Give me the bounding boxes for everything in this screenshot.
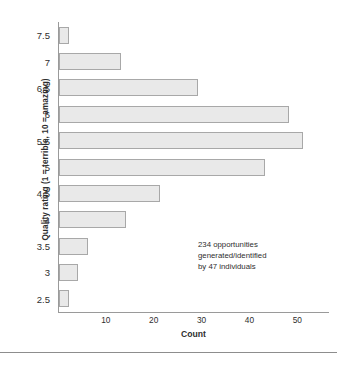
bar-row: 6.5 <box>59 79 198 96</box>
bar-row: 7 <box>59 53 121 70</box>
x-axis-line <box>58 312 329 313</box>
bar <box>59 290 69 307</box>
y-tick-label: 3.5 <box>37 241 50 252</box>
bar-row: 2.5 <box>59 290 69 307</box>
y-tick-label: 4 <box>45 214 50 225</box>
bar <box>59 106 289 123</box>
y-tick-label: 5.5 <box>37 135 50 146</box>
chart-annotation: 234 opportunities generated/identified b… <box>198 239 267 273</box>
bar <box>59 79 198 96</box>
x-tick-label: 10 <box>101 315 110 325</box>
bar <box>59 53 121 70</box>
y-tick-label: 4.5 <box>37 188 50 199</box>
bar <box>59 264 78 281</box>
y-tick-label: 3 <box>45 267 50 278</box>
annotation-line-3: by 47 individuals <box>198 261 267 272</box>
y-tick-label: 6 <box>45 109 50 120</box>
bar-row: 6 <box>59 106 289 123</box>
plot-area: 7.576.565.554.543.532.5 1020304050 Count <box>58 22 326 312</box>
bar <box>59 238 88 255</box>
x-tick-label: 30 <box>197 315 206 325</box>
x-tick-label: 50 <box>293 315 302 325</box>
bar <box>59 132 303 149</box>
bar <box>59 185 160 202</box>
bar-row: 5 <box>59 159 265 176</box>
annotation-line-1: 234 opportunities <box>198 239 267 250</box>
bar-row: 7.5 <box>59 27 69 44</box>
y-tick-label: 7 <box>45 56 50 67</box>
y-tick-label: 2.5 <box>37 293 50 304</box>
x-tick-label: 40 <box>245 315 254 325</box>
bar <box>59 211 126 228</box>
x-tick-label: 20 <box>149 315 158 325</box>
y-tick-label: 5 <box>45 162 50 173</box>
annotation-line-2: generated/identified <box>198 250 267 261</box>
bar-row: 5.5 <box>59 132 303 149</box>
page-divider <box>0 352 337 353</box>
bar-row: 3.5 <box>59 238 88 255</box>
y-tick-label: 7.5 <box>37 30 50 41</box>
bar-row: 3 <box>59 264 78 281</box>
bar-row: 4.5 <box>59 185 160 202</box>
bar-chart-figure: Quality rating (1 = terrible, 10 = amazi… <box>0 0 337 368</box>
y-tick-label: 6.5 <box>37 82 50 93</box>
bar <box>59 159 265 176</box>
x-axis-title: Count <box>58 329 329 339</box>
bar-row: 4 <box>59 211 126 228</box>
bar <box>59 27 69 44</box>
